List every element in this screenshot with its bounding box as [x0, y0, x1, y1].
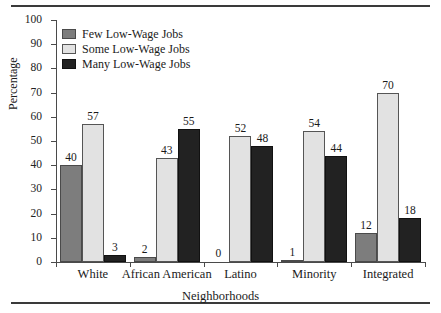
x-axis-title: Neighborhoods — [0, 289, 441, 304]
bar-many[interactable]: 3 — [104, 255, 126, 262]
bar-few[interactable]: 2 — [134, 257, 156, 262]
bar-value-label: 1 — [289, 246, 295, 259]
bar-some[interactable]: 43 — [156, 158, 178, 262]
y-tick-label: 70 — [31, 85, 43, 100]
bar-many[interactable]: 18 — [399, 218, 421, 262]
x-tick-label: White — [78, 267, 109, 282]
y-tick-label: 60 — [31, 109, 43, 124]
y-tick-label: 30 — [31, 181, 43, 196]
x-tick — [56, 262, 57, 267]
y-tick-label: 10 — [31, 230, 43, 245]
bar-value-label: 57 — [87, 110, 99, 123]
bar-value-label: 48 — [257, 132, 269, 145]
y-tick-label: 50 — [31, 133, 43, 148]
legend-label-some: Some Low-Wage Jobs — [82, 43, 190, 56]
bar-some[interactable]: 57 — [82, 124, 104, 262]
legend-item-many: Many Low-Wage Jobs — [62, 57, 190, 71]
y-tick-label: 80 — [31, 60, 43, 75]
bar-value-label: 54 — [309, 117, 321, 130]
figure: Percentage 1009080706050403020100 40573W… — [0, 0, 441, 313]
bar-group-minority: 15444Minority — [277, 20, 351, 262]
bar-value-label: 44 — [331, 142, 343, 155]
bar-value-label: 2 — [142, 243, 148, 256]
y-tick-label: 20 — [31, 206, 43, 221]
bar-value-label: 52 — [235, 122, 247, 135]
x-tick — [351, 262, 352, 267]
legend-label-many: Many Low-Wage Jobs — [82, 58, 190, 71]
bar-many[interactable]: 55 — [178, 129, 200, 262]
bar-value-label: 3 — [112, 241, 118, 254]
legend-item-some: Some Low-Wage Jobs — [62, 42, 190, 56]
bar-few[interactable]: 1 — [281, 260, 303, 262]
bar-value-label: 18 — [404, 204, 416, 217]
y-tick-label: 0 — [36, 254, 42, 269]
bar-group-integrated: 127018Integrated — [351, 20, 425, 262]
bar-many[interactable]: 48 — [251, 146, 273, 262]
bar-some[interactable]: 52 — [229, 136, 251, 262]
y-tick-label: 100 — [25, 12, 42, 27]
legend-swatch-few-icon — [62, 29, 76, 39]
x-tick-label: Integrated — [363, 267, 414, 282]
legend-swatch-many-icon — [62, 59, 76, 69]
bar-few[interactable]: 12 — [355, 233, 377, 262]
legend-label-few: Few Low-Wage Jobs — [82, 28, 183, 41]
x-axis-line — [56, 262, 425, 263]
bar-value-label: 43 — [161, 144, 173, 157]
bar-value-label: 70 — [382, 79, 394, 92]
y-tick-label: 90 — [31, 36, 43, 51]
y-tick-label: 40 — [31, 157, 43, 172]
bar-many[interactable]: 44 — [325, 156, 347, 262]
bar-value-label: 12 — [360, 219, 372, 232]
x-tick-label: African American — [122, 267, 212, 282]
bar-group-latino: 05248Latino — [204, 20, 278, 262]
bar-value-label: 0 — [216, 247, 222, 260]
x-tick-label: Minority — [292, 267, 336, 282]
top-rule — [11, 5, 430, 7]
legend-item-few: Few Low-Wage Jobs — [62, 27, 190, 41]
bar-some[interactable]: 54 — [303, 131, 325, 262]
bar-value-label: 55 — [183, 115, 195, 128]
bar-few[interactable]: 40 — [60, 165, 82, 262]
bar-value-label: 40 — [65, 151, 77, 164]
legend: Few Low-Wage Jobs Some Low-Wage Jobs Man… — [62, 27, 190, 72]
y-axis-title: Percentage — [6, 57, 21, 110]
bar-some[interactable]: 70 — [377, 93, 399, 262]
x-tick-label: Latino — [224, 267, 257, 282]
x-tick — [277, 262, 278, 267]
x-tick — [425, 262, 426, 267]
legend-swatch-some-icon — [62, 44, 76, 54]
